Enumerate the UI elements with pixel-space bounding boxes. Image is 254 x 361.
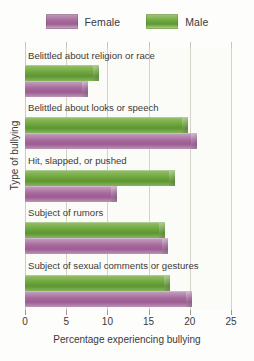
gridline-25 [231, 48, 232, 310]
bar-male [25, 170, 175, 186]
bar-group: Belittled about looks or speech [25, 100, 231, 152]
bar-group: Subject of sexual comments or gestures [25, 258, 231, 310]
bar-male [25, 222, 165, 238]
bar-female [25, 291, 192, 307]
tick-bottom-5 [66, 310, 67, 315]
bar-cap-icon [169, 171, 175, 186]
tick-top-25 [231, 42, 232, 48]
x-axis-label: Percentage experiencing bullying [0, 334, 254, 345]
bar-cap-icon [164, 276, 170, 291]
category-label: Subject of sexual comments or gestures [28, 260, 199, 271]
bar-male [25, 275, 170, 291]
tick-bottom-0 [25, 310, 26, 315]
bar-cap-icon [162, 239, 168, 254]
y-axis-label: Type of bullying [9, 86, 20, 226]
bar-cap-icon [159, 223, 165, 238]
tick-bottom-25 [231, 310, 232, 315]
legend-label-male: Male [185, 16, 208, 28]
legend-swatch-male-icon [146, 14, 178, 29]
category-label: Belittled about religion or race [28, 50, 155, 61]
bar-cap-icon [82, 82, 88, 97]
x-tick-label: 20 [184, 316, 195, 327]
x-tick-label: 0 [22, 316, 28, 327]
bar-cap-icon [191, 134, 197, 149]
bar-female [25, 133, 197, 149]
x-axis-ticks: 0510152025 [25, 316, 231, 330]
tick-bottom-20 [190, 310, 191, 315]
bar-male [25, 65, 99, 81]
legend-swatch-female-icon [46, 14, 78, 29]
x-tick-label: 25 [225, 316, 236, 327]
bar-cap-icon [186, 292, 192, 307]
bar-female [25, 186, 117, 202]
category-label: Subject of rumors [28, 207, 103, 218]
bar-female [25, 238, 168, 254]
bullying-bar-chart: Female Male Belittled about religion or … [0, 0, 254, 361]
bar-cap-icon [111, 187, 117, 202]
category-label: Belittled about looks or speech [28, 102, 159, 113]
bar-cap-icon [182, 118, 188, 133]
tick-bottom-10 [107, 310, 108, 315]
category-label: Hit, slapped, or pushed [28, 155, 127, 166]
plot-area: Belittled about religion or raceBelittle… [25, 48, 231, 310]
chart-legend: Female Male [0, 14, 254, 29]
bar-male [25, 117, 188, 133]
legend-entry-male: Male [146, 14, 208, 29]
legend-entry-female: Female [46, 14, 121, 29]
bar-group: Subject of rumors [25, 205, 231, 257]
bar-group: Hit, slapped, or pushed [25, 153, 231, 205]
x-tick-label: 15 [143, 316, 154, 327]
bar-group: Belittled about religion or race [25, 48, 231, 100]
x-tick-label: 10 [102, 316, 113, 327]
legend-label-female: Female [85, 16, 121, 28]
bar-cap-icon [93, 66, 99, 81]
bar-female [25, 81, 88, 97]
tick-bottom-15 [149, 310, 150, 315]
x-tick-label: 5 [63, 316, 69, 327]
